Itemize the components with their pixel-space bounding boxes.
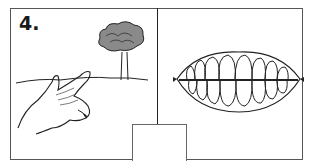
answer-box[interactable] bbox=[132, 124, 187, 161]
